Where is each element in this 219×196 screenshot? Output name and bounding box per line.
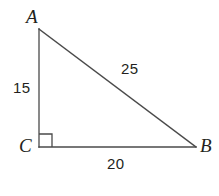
triangle-outline	[39, 29, 196, 147]
vertex-label-b: B	[200, 136, 212, 155]
vertex-label-c: C	[19, 136, 32, 155]
side-length-label-vertical-leg: 15	[13, 80, 30, 95]
right-triangle-figure: A C B 15 25 20	[0, 0, 219, 196]
vertex-label-a: A	[26, 7, 38, 26]
side-length-label-hypotenuse: 25	[121, 61, 138, 76]
side-hypotenuse-AB	[39, 29, 196, 147]
side-length-label-horizontal-leg: 20	[107, 156, 124, 171]
right-angle-marker-icon	[39, 134, 52, 147]
